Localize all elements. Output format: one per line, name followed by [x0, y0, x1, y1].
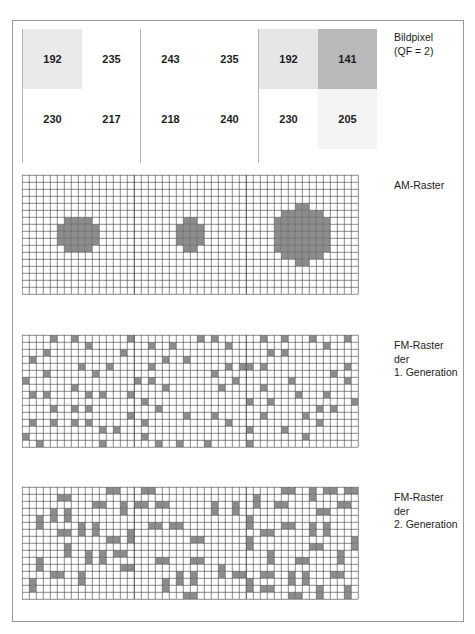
- label-fm-raster-1: FM-Raster der 1. Generation: [394, 339, 458, 380]
- pixel-cell: 205: [318, 89, 377, 149]
- pixel-cell: 218: [141, 89, 200, 149]
- pixel-cell: 217: [82, 89, 141, 149]
- pixel-cell: 243: [141, 29, 200, 89]
- label-am-raster: AM-Raster: [394, 179, 444, 193]
- top-caption: [0, 0, 475, 14]
- pixel-cell: 141: [318, 29, 377, 89]
- pixel-cell: 192: [23, 29, 82, 89]
- fm1-raster-canvas: [22, 333, 388, 452]
- figure-frame: 192 235 230 217 243 235 218 240 192 141 …: [12, 20, 464, 622]
- pixel-group-2: 243 235 218 240: [140, 29, 258, 163]
- pixel-cell: 235: [82, 29, 141, 89]
- bildpixel-groups: 192 235 230 217 243 235 218 240 192 141 …: [22, 29, 388, 163]
- label-fm-raster-2: FM-Raster der 2. Generation: [394, 491, 458, 532]
- label-bildpixel: Bildpixel (QF = 2): [394, 31, 433, 58]
- pixel-group-3: 192 141 230 205: [258, 29, 376, 163]
- fm1-raster-panels: [22, 333, 388, 473]
- fm2-raster-panels: [22, 485, 388, 617]
- pixel-cell: 230: [23, 89, 82, 149]
- pixel-group-1: 192 235 230 217: [22, 29, 140, 163]
- fm2-raster-canvas: [22, 485, 388, 604]
- am-raster-row: [13, 173, 465, 321]
- am-raster-canvas: [22, 173, 388, 299]
- pixel-cell: 235: [200, 29, 259, 89]
- am-raster-panels: [22, 173, 388, 321]
- pixel-cell: 240: [200, 89, 259, 149]
- pixel-cell: 230: [259, 89, 318, 149]
- pixel-cell: 192: [259, 29, 318, 89]
